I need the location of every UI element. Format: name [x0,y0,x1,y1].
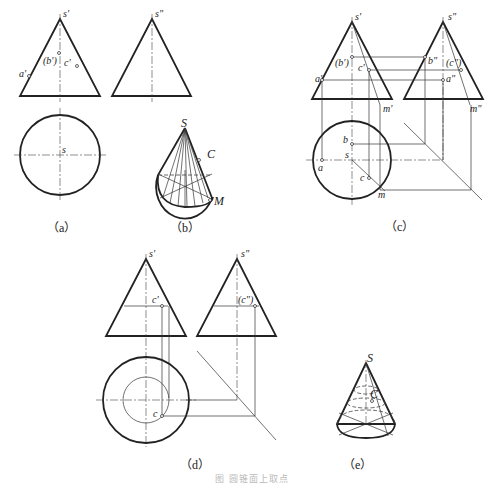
label-m-double-prime: m" [470,103,482,114]
figure-caption: 图 圆锥面上取点 [215,472,289,485]
label-a-double-prime: a" [446,73,456,84]
label-a-prime: a' [19,68,27,79]
label-b-double-prime: b" [428,55,438,66]
label-M: M [213,194,225,208]
label-b-prime-c: (b') [335,57,349,69]
label-c-prime: c' [64,57,71,68]
caption-c: （c） [385,217,414,235]
label-C-e: C [370,387,379,401]
caption-d: （d） [180,455,210,473]
label-c-prime-d: c' [152,294,159,305]
label-s-prime-d: s' [149,248,156,259]
label-s-double-prime: s" [155,8,164,19]
cone-point-diagram: s' s" a' (b') c' s S C M [0,0,493,487]
panel-a: s' s" a' (b') c' s [14,8,191,202]
label-a-prime-c: a' [315,73,323,84]
label-s-c: s [345,149,349,160]
label-s: s [62,144,66,155]
label-S-e: S [367,351,373,365]
label-C: C [207,147,216,161]
label-c-double-prime-d: (c") [238,294,254,306]
panel-d: s' s" c' (c") c [96,248,276,447]
label-s-double-prime-d: s" [241,248,250,259]
panel-c: s' s" (b') c' a' m' b" (c") a" m" b s a … [306,11,483,205]
panel-b: S C M [156,116,225,219]
label-c-double-prime-c: (c") [446,57,462,69]
label-b: b [343,134,348,145]
label-m: m [378,189,385,200]
caption-a: （a） [47,218,76,236]
panel-e: S C [337,351,395,438]
caption-e: （e） [343,455,372,473]
label-S: S [181,116,187,130]
label-s-prime-c: s' [355,11,362,22]
label-c: c [360,172,365,183]
label-m-prime-c: m' [383,103,393,114]
label-b-prime: (b') [43,55,57,67]
label-a: a [318,162,323,173]
label-s-double-prime-c: s" [448,11,457,22]
caption-b: （b） [170,218,200,236]
label-c-d: c [153,408,158,419]
label-c-prime-c: c' [358,62,365,73]
label-s-prime: s' [63,8,70,19]
